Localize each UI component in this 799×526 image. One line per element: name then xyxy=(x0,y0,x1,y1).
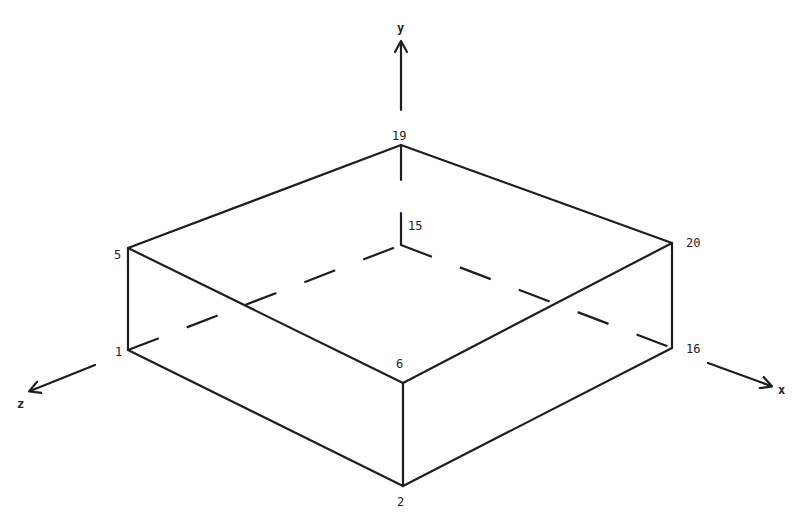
node-label-16: 16 xyxy=(686,343,700,355)
edge-19-20 xyxy=(401,145,672,243)
x-axis-label: x xyxy=(778,384,785,396)
node-label-6: 6 xyxy=(396,358,403,370)
edge-2-16 xyxy=(403,348,672,486)
edge-1-2 xyxy=(128,350,403,486)
y-axis-label: y xyxy=(397,22,404,34)
hidden-edge-1-15 xyxy=(128,245,401,350)
node-label-20: 20 xyxy=(686,237,700,249)
edge-5-19 xyxy=(128,145,401,248)
edge-20-6 xyxy=(403,243,672,383)
node-label-1: 1 xyxy=(115,346,122,358)
x-axis-arrow xyxy=(708,363,771,386)
box-diagram xyxy=(0,0,799,526)
z-axis-arrow xyxy=(30,365,95,391)
node-label-2: 2 xyxy=(397,496,404,508)
edge-6-5 xyxy=(128,248,403,383)
node-label-15: 15 xyxy=(408,220,422,232)
node-label-19: 19 xyxy=(392,130,406,142)
hidden-edge-15-16 xyxy=(401,245,672,348)
node-label-5: 5 xyxy=(114,249,121,261)
z-axis-label: z xyxy=(17,398,24,410)
